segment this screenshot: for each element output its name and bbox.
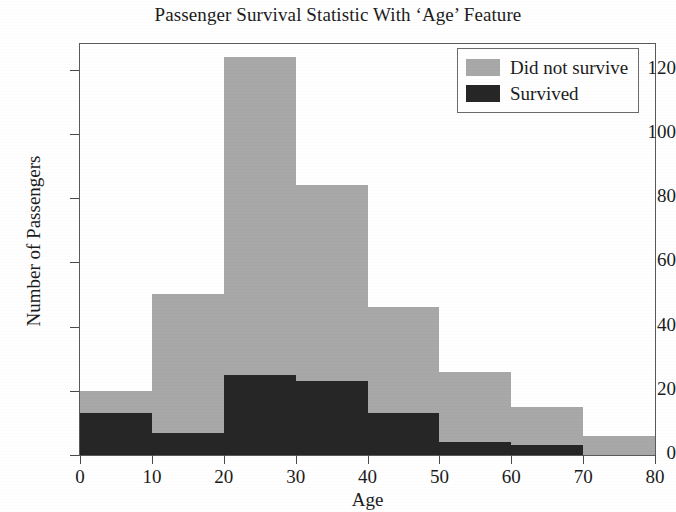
bar-stack	[152, 294, 224, 455]
x-tick-mark	[296, 455, 297, 464]
chart-legend: Did not survive Survived	[457, 48, 639, 113]
x-tick-label: 60	[481, 466, 541, 488]
x-tick-mark	[439, 455, 440, 464]
x-tick-mark	[583, 455, 584, 464]
y-tick-label: 0	[614, 442, 676, 464]
bar-stack	[224, 57, 296, 455]
bar-segment-survived	[439, 442, 511, 455]
bar-segment-survived	[368, 413, 440, 455]
y-tick-label: 20	[614, 378, 676, 400]
x-tick-mark	[152, 455, 153, 464]
legend-item-survived: Survived	[466, 80, 628, 106]
x-tick-label: 80	[625, 466, 676, 488]
legend-item-did-not-survive: Did not survive	[466, 54, 628, 80]
x-tick-label: 10	[122, 466, 182, 488]
legend-swatch-did-not-survive	[466, 59, 500, 76]
bar-segment-did-not-survive	[511, 407, 583, 446]
legend-swatch-survived	[466, 85, 500, 102]
bar-segment-did-not-survive	[439, 372, 511, 443]
x-tick-label: 70	[553, 466, 613, 488]
x-tick-label: 50	[409, 466, 469, 488]
y-tick-mark	[70, 327, 79, 328]
bar-segment-survived	[296, 381, 368, 455]
chart-figure: Passenger Survival Statistic With ‘Age’ …	[0, 0, 676, 512]
bar-segment-did-not-survive	[80, 391, 152, 413]
legend-label-survived: Survived	[510, 84, 579, 103]
legend-label-did-not-survive: Did not survive	[510, 58, 628, 77]
y-tick-label: 100	[614, 121, 676, 143]
y-tick-mark	[70, 134, 79, 135]
x-tick-mark	[80, 455, 81, 464]
y-tick-mark	[70, 70, 79, 71]
bar-stack	[439, 372, 511, 455]
bar-segment-did-not-survive	[152, 294, 224, 432]
y-tick-mark	[70, 262, 79, 263]
bar-segment-survived	[224, 375, 296, 455]
x-tick-mark	[655, 455, 656, 464]
bar-segment-survived	[152, 433, 224, 455]
y-axis-label: Number of Passengers	[23, 121, 45, 361]
y-tick-mark	[70, 455, 79, 456]
bar-segment-survived	[511, 445, 583, 455]
y-tick-label: 80	[614, 185, 676, 207]
x-tick-label: 20	[194, 466, 254, 488]
bar-stack	[511, 407, 583, 455]
bar-segment-did-not-survive	[224, 57, 296, 375]
y-tick-label: 60	[614, 249, 676, 271]
x-tick-label: 40	[338, 466, 398, 488]
bar-segment-did-not-survive	[368, 307, 440, 413]
x-tick-mark	[368, 455, 369, 464]
x-tick-label: 30	[266, 466, 326, 488]
y-tick-label: 40	[614, 314, 676, 336]
y-tick-mark	[70, 198, 79, 199]
x-axis-label: Age	[79, 489, 656, 511]
chart-title: Passenger Survival Statistic With ‘Age’ …	[0, 4, 676, 26]
bar-stack	[296, 185, 368, 455]
x-tick-label: 0	[50, 466, 110, 488]
bar-stack	[368, 307, 440, 455]
y-tick-mark	[70, 391, 79, 392]
bar-segment-survived	[80, 413, 152, 455]
bar-segment-did-not-survive	[296, 185, 368, 381]
x-tick-mark	[511, 455, 512, 464]
x-tick-mark	[224, 455, 225, 464]
bar-stack	[80, 391, 152, 455]
